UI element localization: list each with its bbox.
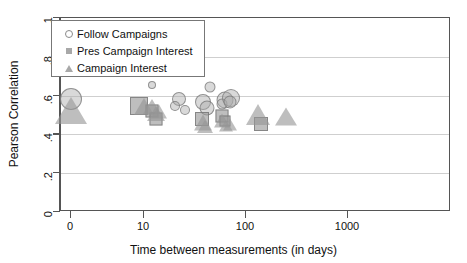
y-tick (53, 95, 60, 96)
legend-label: Pres Campaign Interest (77, 45, 193, 57)
y-axis-title-label: Pearson Correlation (7, 61, 21, 168)
figure: Pearson Correlation 0.2.4.6.81 010100100… (0, 0, 467, 263)
y-tick (53, 17, 60, 18)
x-tick-label: 1000 (335, 220, 359, 232)
y-tick-label: 0 (42, 211, 54, 217)
legend-marker-circle-icon (61, 30, 77, 38)
y-tick (53, 172, 60, 173)
x-tick (347, 211, 348, 218)
data-point-circle (170, 101, 180, 111)
y-tick (53, 133, 60, 134)
y-tick-label: .4 (42, 133, 54, 142)
y-tick (53, 211, 60, 212)
data-point-circle (224, 96, 237, 109)
x-tick-label: 100 (236, 220, 254, 232)
data-point-triangle (151, 101, 167, 118)
legend-marker-triangle-icon (61, 65, 77, 72)
x-tick (245, 211, 246, 218)
x-tick (70, 211, 71, 218)
legend: Follow CampaignsPres Campaign InterestCa… (51, 20, 205, 77)
gridline (61, 173, 449, 174)
y-axis-title: Pearson Correlation (6, 17, 22, 211)
y-tick-label: .6 (42, 95, 54, 104)
data-point-triangle (197, 117, 213, 133)
data-point-circle (148, 81, 156, 89)
legend-label: Follow Campaigns (77, 28, 167, 40)
x-tick (143, 211, 144, 218)
data-point-triangle (246, 101, 270, 125)
x-tick-label: 10 (137, 220, 149, 232)
legend-item-circle[interactable]: Follow Campaigns (61, 26, 204, 42)
legend-label: Campaign Interest (77, 62, 167, 74)
data-point-triangle (275, 105, 297, 126)
legend-item-square[interactable]: Pres Campaign Interest (61, 43, 204, 59)
gridline (61, 134, 449, 135)
data-point-circle (204, 81, 215, 92)
data-point-triangle (55, 94, 87, 124)
data-point-triangle (223, 115, 237, 130)
legend-item-triangle[interactable]: Campaign Interest (61, 60, 204, 76)
x-axis-title-label: Time between measurements (in days) (130, 243, 337, 257)
x-tick-label: 0 (67, 220, 73, 232)
legend-marker-square-icon (61, 48, 77, 54)
data-point-circle (180, 105, 190, 115)
y-tick-label: .2 (42, 172, 54, 181)
x-axis-title: Time between measurements (in days) (0, 243, 467, 257)
gridline (61, 96, 449, 97)
